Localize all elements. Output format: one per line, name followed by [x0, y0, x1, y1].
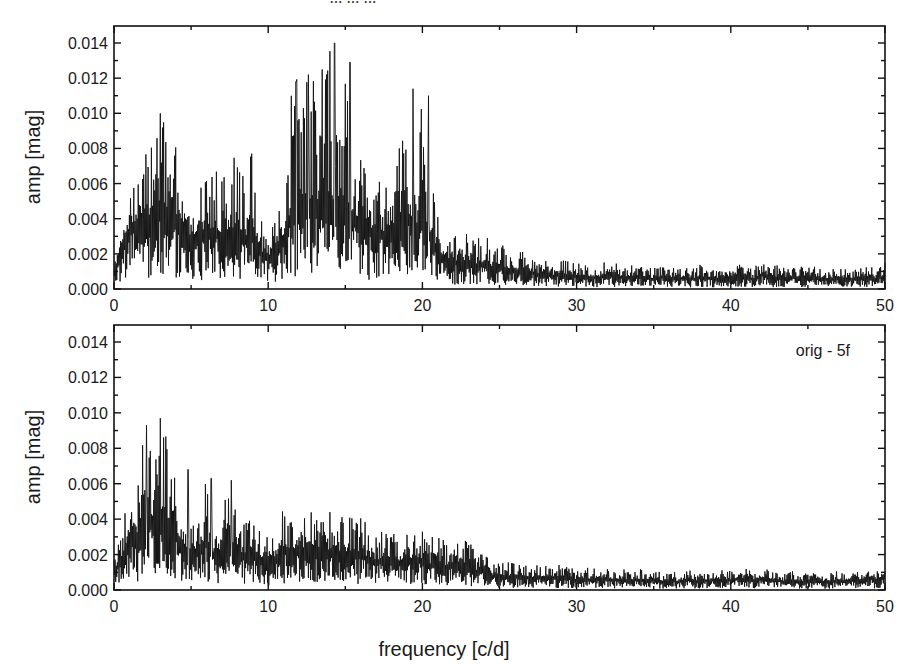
- figure-canvas: 0.0000.0020.0040.0060.0080.0100.0120.014…: [0, 0, 905, 667]
- y-tick-label: 0.006: [68, 176, 108, 193]
- top-y-tick-labels: 0.0000.0020.0040.0060.0080.0100.0120.014: [68, 35, 108, 298]
- y-tick-label: 0.008: [68, 140, 108, 157]
- y-tick-label: 0.012: [68, 369, 108, 386]
- y-tick-label: 0.006: [68, 476, 108, 493]
- x-tick-label: 40: [722, 297, 740, 314]
- x-tick-label: 20: [414, 297, 432, 314]
- spectrum-polyline: [114, 418, 885, 589]
- x-tick-label: 30: [568, 598, 586, 615]
- top-y-axis-title: amp [mag]: [22, 110, 44, 204]
- y-tick-label: 0.000: [68, 582, 108, 599]
- x-tick-label: 50: [876, 598, 894, 615]
- bottom-annotation-orig-5f: orig - 5f: [796, 342, 851, 359]
- x-tick-label: 20: [414, 598, 432, 615]
- y-tick-label: 0.010: [68, 405, 108, 422]
- y-tick-label: 0.004: [68, 511, 108, 528]
- y-tick-label: 0.002: [68, 246, 108, 263]
- x-tick-label: 10: [259, 297, 277, 314]
- y-tick-label: 0.002: [68, 547, 108, 564]
- y-tick-label: 0.000: [68, 281, 108, 298]
- y-tick-label: 0.014: [68, 35, 108, 52]
- y-tick-label: 0.010: [68, 105, 108, 122]
- y-tick-label: 0.008: [68, 440, 108, 457]
- top-x-tick-labels: 01020304050: [110, 297, 894, 314]
- y-tick-label: 0.012: [68, 70, 108, 87]
- spectrum-polyline: [114, 43, 885, 287]
- y-tick-label: 0.014: [68, 334, 108, 351]
- x-tick-label: 40: [722, 598, 740, 615]
- top-spectrum-panel: 0.0000.0020.0040.0060.0080.0100.0120.014…: [22, 26, 894, 314]
- x-axis-title: frequency [c/d]: [378, 638, 509, 660]
- bottom-spectrum-line: [114, 418, 885, 589]
- bottom-y-axis-title: amp [mag]: [22, 410, 44, 504]
- x-tick-label: 30: [568, 297, 586, 314]
- bottom-x-tick-labels: 01020304050: [110, 598, 894, 615]
- bottom-spectrum-panel: 0.0000.0020.0040.0060.0080.0100.0120.014…: [22, 325, 894, 615]
- x-tick-label: 0: [110, 598, 119, 615]
- bottom-y-tick-labels: 0.0000.0020.0040.0060.0080.0100.0120.014: [68, 334, 108, 599]
- y-tick-label: 0.004: [68, 211, 108, 228]
- x-tick-label: 0: [110, 297, 119, 314]
- x-tick-label: 50: [876, 297, 894, 314]
- x-tick-label: 10: [259, 598, 277, 615]
- top-spectrum-line: [114, 43, 885, 287]
